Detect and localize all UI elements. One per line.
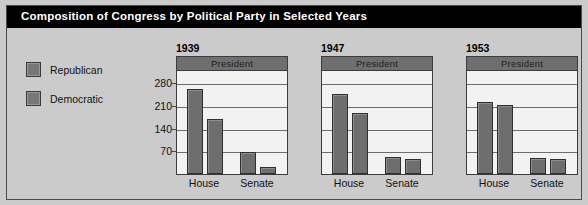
y-tick-label: 280 (154, 77, 172, 89)
bar-republican-senate (260, 167, 276, 174)
bar-group (322, 57, 432, 174)
chart-page: Composition of Congress by Political Par… (0, 0, 588, 205)
panel-year-label: 1947 (321, 42, 344, 54)
bar-group (177, 57, 287, 174)
legend-label-republican: Republican (50, 64, 103, 76)
bar-republican-senate (385, 157, 401, 174)
bar-republican-house (332, 94, 348, 174)
plot-area: President (176, 56, 288, 175)
category-labels: HouseSenate (466, 177, 578, 193)
bar-republican-house (207, 119, 223, 174)
bar-republican-house (477, 102, 493, 174)
bar-republican-senate (530, 158, 546, 174)
legend-swatch-republican (26, 62, 41, 77)
bar-democratic-house (497, 105, 513, 174)
panel-year-label: 1953 (466, 42, 489, 54)
category-label-house: House (472, 177, 516, 189)
bar-democratic-senate (240, 152, 256, 174)
title-bar: Composition of Congress by Political Par… (7, 6, 581, 28)
bar-democratic-house (187, 89, 203, 174)
plot-area: President (321, 56, 433, 175)
category-labels: HouseSenate (321, 177, 433, 193)
bar-democratic-house (352, 113, 368, 174)
page-title: Composition of Congress by Political Par… (21, 10, 367, 22)
y-tick-label: 140 (154, 123, 172, 135)
bar-democratic-senate (405, 159, 421, 174)
legend-swatch-democratic (26, 91, 41, 106)
legend-item-republican: Republican (26, 62, 103, 77)
legend-item-democratic: Democratic (26, 91, 103, 106)
bar-group (467, 57, 577, 174)
category-label-senate: Senate (380, 177, 424, 189)
category-label-house: House (327, 177, 371, 189)
plot-area: President (466, 56, 578, 175)
category-label-house: House (182, 177, 226, 189)
panel-year-label: 1939 (176, 42, 199, 54)
y-axis: 70140210280 (150, 56, 176, 175)
legend: Republican Democratic (26, 62, 103, 120)
category-label-senate: Senate (525, 177, 569, 189)
bar-democratic-senate (550, 159, 566, 174)
y-tick-label: 70 (160, 145, 172, 157)
legend-label-democratic: Democratic (50, 93, 103, 105)
category-label-senate: Senate (235, 177, 279, 189)
category-labels: HouseSenate (176, 177, 288, 193)
y-tick-label: 210 (154, 100, 172, 112)
